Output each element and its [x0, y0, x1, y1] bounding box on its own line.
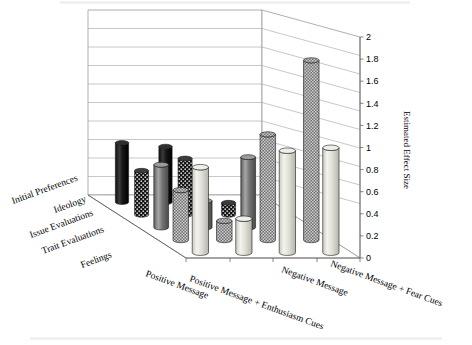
- value-axis-tick-label: 1.2: [366, 121, 379, 131]
- bar-cylinder: [279, 148, 295, 256]
- value-axis-tick-label: 1: [366, 143, 371, 153]
- value-axis-title: Estimated Effect Size: [402, 111, 412, 189]
- value-axis-tick-label: 0.6: [366, 187, 379, 197]
- value-axis-tick-label: 1.8: [366, 54, 379, 64]
- value-axis-tick-label: 0: [366, 253, 371, 263]
- value-axis-tick-label: 0.8: [366, 165, 379, 175]
- bar-cylinder: [173, 188, 189, 243]
- category-axis-labels: Positive Message Positive Message + Enth…: [144, 258, 444, 331]
- bar-cylinder: [154, 162, 169, 230]
- value-axis: 00.20.40.60.811.21.41.61.82: [360, 32, 379, 263]
- value-axis-tick-label: 1.4: [366, 99, 379, 109]
- cut-off-text-top: [60, 1, 410, 4]
- bar-cylinder: [323, 145, 339, 255]
- bar-cylinder: [236, 216, 252, 255]
- bar-cylinder: [135, 168, 149, 217]
- x-label-negative-message-fear-cues: Negative Message + Fear Cues: [329, 258, 444, 308]
- value-axis-tick-label: 0.2: [366, 231, 379, 241]
- bar-cylinder: [260, 132, 276, 243]
- figure-3d-bar-chart: 00.20.40.60.811.21.41.61.82 Estimated Ef…: [0, 0, 472, 345]
- value-axis-tick-label: 0.4: [366, 209, 379, 219]
- value-axis-tick-label: 2: [366, 32, 371, 42]
- bar-cylinder: [222, 200, 236, 217]
- bar-cylinder: [304, 58, 320, 243]
- bar-cylinder: [192, 164, 208, 255]
- value-axis-tick-label: 1.6: [366, 76, 379, 86]
- depth-label-feelings: Feelings: [79, 249, 113, 270]
- bar-cylinder: [217, 218, 233, 242]
- bar-cylinder: [115, 141, 128, 205]
- cut-off-caption-bottom: [30, 337, 442, 340]
- chart-svg: 00.20.40.60.811.21.41.61.82 Estimated Ef…: [0, 0, 472, 345]
